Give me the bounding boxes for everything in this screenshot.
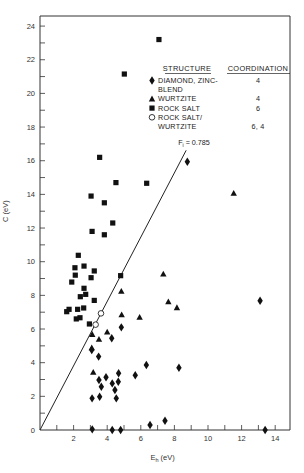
legend-label: WURTZITE: [158, 94, 197, 103]
y-tick-label: 4: [31, 358, 35, 367]
data-point-diamond: [110, 426, 115, 434]
data-point-square: [83, 292, 88, 297]
data-point-square: [92, 298, 97, 303]
data-point-diamond: [162, 417, 167, 425]
legend-label: ROCK SALT/: [158, 113, 202, 122]
legend-marker-circle: [149, 115, 155, 121]
data-point-diamond: [112, 386, 117, 394]
data-point-diamond: [97, 392, 102, 400]
x-tick-label: 14: [271, 434, 279, 443]
legend-coordination: 6, 4: [252, 122, 265, 131]
data-point-diamond: [176, 364, 181, 372]
data-point-square: [122, 71, 127, 76]
data-point-square: [102, 232, 107, 237]
legend-header-coordination: COORDINATION: [228, 64, 289, 73]
y-tick-label: 24: [27, 22, 35, 31]
data-point-square: [75, 307, 80, 312]
x-tick-label: 4: [105, 434, 109, 443]
legend-marker-diamond: [149, 76, 154, 84]
legend-entry: ROCK SALT6: [149, 104, 260, 113]
reference-line-group: Fi = 0.785: [40, 138, 210, 430]
data-point-square: [72, 265, 77, 270]
data-point-diamond: [262, 426, 267, 434]
data-point-triangle: [90, 369, 96, 375]
data-point-square: [97, 155, 102, 160]
data-point-circle: [93, 322, 99, 328]
data-point-diamond: [96, 376, 101, 384]
data-point-diamond: [110, 379, 115, 387]
legend-coordination: 4: [256, 94, 260, 103]
y-tick-label: 18: [27, 123, 35, 132]
data-point-diamond: [119, 323, 124, 331]
data-point-square: [81, 305, 86, 310]
data-point-diamond: [133, 371, 138, 379]
legend-coordination: 6: [256, 104, 260, 113]
legend-marker-triangle: [149, 96, 155, 102]
legend: STRUCTURECOORDINATIONDIAMOND, ZINC-BLEND…: [149, 64, 290, 131]
data-point-diamond: [96, 352, 101, 360]
legend-entry: DIAMOND, ZINC-BLEND4: [149, 76, 260, 94]
data-point-diamond: [116, 377, 121, 385]
legend-coordination: 4: [256, 76, 260, 85]
y-tick-label: 0: [31, 426, 35, 435]
data-point-triangle: [231, 190, 237, 196]
data-point-square: [92, 268, 97, 273]
data-point-triangle: [118, 311, 124, 317]
y-tick-label: 10: [27, 257, 35, 266]
data-point-diamond: [147, 421, 152, 429]
data-point-diamond: [144, 361, 149, 369]
data-point-square: [88, 193, 93, 198]
data-point-triangle: [104, 329, 110, 335]
data-point-triangle: [136, 314, 142, 320]
legend-entry: WURTZITE4: [149, 94, 260, 103]
scatter-chart: 2468101214024681012141618202224 Fi = 0.7…: [0, 0, 304, 473]
legend-marker-square: [149, 106, 154, 111]
y-tick-label: 12: [27, 224, 35, 233]
x-tick-label: 8: [172, 434, 176, 443]
data-point-square: [113, 180, 118, 185]
data-point-square: [77, 315, 82, 320]
data-point-diamond: [114, 394, 119, 402]
reference-line-label: Fi = 0.785: [178, 138, 210, 148]
x-tick-label: 12: [237, 434, 245, 443]
data-point-diamond: [99, 383, 104, 391]
reference-line: [40, 150, 186, 430]
legend-label: WURTZITE: [158, 122, 197, 131]
data-point-square: [89, 229, 94, 234]
data-point-square: [73, 273, 78, 278]
data-point-triangle: [118, 288, 124, 294]
data-point-diamond: [103, 373, 108, 381]
data-point-square: [118, 273, 123, 278]
data-point-square: [69, 279, 74, 284]
data-point-square: [110, 220, 115, 225]
y-tick-label: 6: [31, 325, 35, 334]
data-point-triangle: [174, 304, 180, 310]
data-point-square: [64, 309, 69, 314]
y-axis-title: C (eV): [1, 200, 10, 222]
y-tick-label: 2: [31, 392, 35, 401]
data-point-square: [87, 321, 92, 326]
data-point-square: [144, 181, 149, 186]
data-point-square: [156, 37, 161, 42]
data-point-diamond: [185, 158, 190, 166]
data-point-triangle: [160, 271, 166, 277]
legend-header-structure: STRUCTURE: [163, 64, 211, 73]
data-point-triangle: [96, 336, 102, 342]
data-point-diamond: [89, 394, 94, 402]
data-point-circle: [98, 311, 104, 317]
legend-label: DIAMOND, ZINC-: [158, 76, 218, 85]
y-tick-label: 20: [27, 89, 35, 98]
y-tick-label: 22: [27, 55, 35, 64]
data-point-square: [81, 263, 86, 268]
data-point-diamond: [109, 334, 114, 342]
data-point-square: [102, 200, 107, 205]
x-tick-label: 6: [139, 434, 143, 443]
y-tick-label: 8: [31, 291, 35, 300]
data-point-diamond: [116, 369, 121, 377]
legend-label: ROCK SALT: [158, 104, 200, 113]
data-point-triangle: [89, 344, 95, 350]
data-point-diamond: [257, 297, 262, 305]
legend-entry: ROCK SALT/WURTZITE6, 4: [149, 113, 264, 131]
x-tick-label: 10: [204, 434, 212, 443]
data-point-square: [81, 286, 86, 291]
